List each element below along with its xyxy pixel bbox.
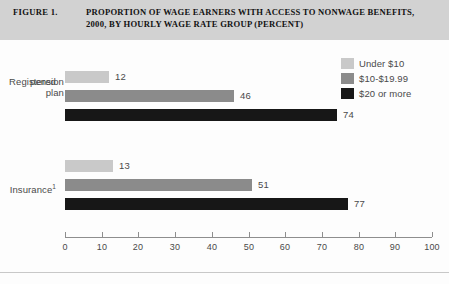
x-axis-tick-70 xyxy=(322,232,323,237)
bar-value-insurance-20-or-more: 77 xyxy=(354,198,365,209)
x-axis-tick-90 xyxy=(395,232,396,237)
category-label-line-3: plan xyxy=(8,87,64,98)
legend-item-10-to-19: $10-$19.99 xyxy=(341,71,411,85)
x-axis-line xyxy=(65,237,432,238)
x-axis-label-100: 100 xyxy=(417,242,447,252)
bar-insurance-20-or-more xyxy=(65,198,348,210)
category-label-line-2: pension xyxy=(8,76,64,87)
x-axis-tick-20 xyxy=(138,232,139,237)
x-axis-label-90: 90 xyxy=(380,242,410,252)
figure-bottom-rule xyxy=(0,272,449,273)
x-axis-tick-30 xyxy=(175,232,176,237)
figure-container: FIGURE 1. PROPORTION OF WAGE EARNERS WIT… xyxy=(0,0,449,284)
x-axis-label-80: 80 xyxy=(344,242,374,252)
x-axis-label-30: 30 xyxy=(160,242,190,252)
bar-value-rpp-10-to-19: 46 xyxy=(240,90,251,101)
x-axis-label-0: 0 xyxy=(50,242,80,252)
legend-item-20-or-more: $20 or more xyxy=(341,86,411,100)
x-axis-tick-60 xyxy=(285,232,286,237)
x-axis-label-10: 10 xyxy=(87,242,117,252)
x-axis-label-40: 40 xyxy=(197,242,227,252)
legend-label-under-10: Under $10 xyxy=(359,58,404,69)
x-axis-tick-80 xyxy=(359,232,360,237)
bar-value-insurance-under-10: 13 xyxy=(119,160,130,171)
bar-value-rpp-20-or-more: 74 xyxy=(343,109,354,120)
chart-plot-area: Under $10 $10-$19.99 $20 or more Registe… xyxy=(0,40,449,284)
legend-label-20-or-more: $20 or more xyxy=(359,88,411,99)
x-axis-label-60: 60 xyxy=(270,242,300,252)
bar-rpp-under-10 xyxy=(65,71,109,83)
x-axis-tick-0 xyxy=(65,232,66,237)
bar-insurance-10-to-19 xyxy=(65,179,252,191)
x-axis-tick-40 xyxy=(212,232,213,237)
category-label-registered-pension-plan: Registered pension plan xyxy=(0,76,64,98)
legend-swatch-icon-20-or-more xyxy=(341,88,354,99)
legend-swatch-icon-10-to-19 xyxy=(341,73,354,84)
x-axis-label-50: 50 xyxy=(234,242,264,252)
bar-insurance-under-10 xyxy=(65,160,113,172)
legend-item-under-10: Under $10 xyxy=(341,56,411,70)
bar-value-rpp-under-10: 12 xyxy=(115,71,126,82)
legend-label-10-to-19: $10-$19.99 xyxy=(359,73,408,84)
figure-header-inner: FIGURE 1. PROPORTION OF WAGE EARNERS WIT… xyxy=(13,7,441,30)
x-axis-label-20: 20 xyxy=(123,242,153,252)
bar-rpp-10-to-19 xyxy=(65,90,234,102)
category-label-insurance-main: Insurance xyxy=(10,184,53,195)
category-label-insurance-footnote-marker: 1 xyxy=(52,183,56,190)
figure-header-band: FIGURE 1. PROPORTION OF WAGE EARNERS WIT… xyxy=(0,0,449,40)
figure-title: PROPORTION OF WAGE EARNERS WITH ACCESS T… xyxy=(86,7,416,30)
figure-number-label: FIGURE 1. xyxy=(13,7,86,19)
x-axis-tick-50 xyxy=(249,232,250,237)
chart-legend: Under $10 $10-$19.99 $20 or more xyxy=(341,56,411,101)
legend-swatch-icon-under-10 xyxy=(341,58,354,69)
bar-rpp-20-or-more xyxy=(65,109,337,121)
x-axis-tick-10 xyxy=(102,232,103,237)
x-axis-label-70: 70 xyxy=(307,242,337,252)
bar-value-insurance-10-to-19: 51 xyxy=(258,179,269,190)
category-label-insurance-text: Insurance1 xyxy=(0,184,56,195)
x-axis-tick-100 xyxy=(432,232,433,237)
